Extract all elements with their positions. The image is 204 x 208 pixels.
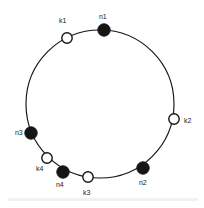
ring-node-k1[interactable] <box>62 33 72 43</box>
ring-node-n3[interactable] <box>25 127 37 139</box>
node-label-k4: k4 <box>36 165 43 173</box>
nodes-group <box>25 24 179 182</box>
node-label-n1: n1 <box>99 13 107 21</box>
node-label-k2: k2 <box>184 117 191 125</box>
ring-node-n2[interactable] <box>137 162 149 174</box>
node-label-n2: n2 <box>139 179 147 187</box>
node-label-k3: k3 <box>83 189 90 197</box>
ring-canvas <box>0 0 204 208</box>
ring-node-n4[interactable] <box>57 166 69 178</box>
node-label-k1: k1 <box>59 17 66 25</box>
node-label-n3: n3 <box>15 129 23 137</box>
ring-node-k4[interactable] <box>42 153 52 163</box>
ring-node-k3[interactable] <box>83 172 93 182</box>
ring-node-n1[interactable] <box>98 24 110 36</box>
ring-node-k2[interactable] <box>169 114 179 124</box>
ring-diagram: n1k1n3k4n4k3n2k2 <box>0 0 204 208</box>
bottom-band <box>8 198 198 201</box>
node-label-n4: n4 <box>56 181 64 189</box>
